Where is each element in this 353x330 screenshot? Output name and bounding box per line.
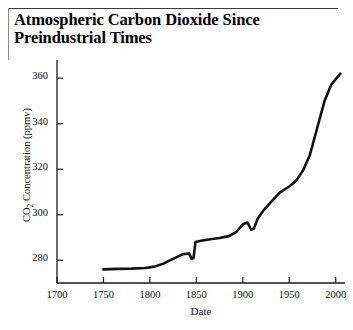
co2-line-chart	[0, 0, 353, 330]
y-tick-label-280: 280	[14, 252, 48, 263]
y-axis-ticks	[57, 78, 63, 260]
x-tick-label-1800: 1800	[130, 289, 170, 300]
y-tick-label-320: 320	[14, 161, 48, 172]
x-tick-label-2000: 2000	[316, 289, 353, 300]
y-tick-label-340: 340	[14, 116, 48, 127]
x-tick-label-1900: 1900	[223, 289, 263, 300]
y-tick-label-360: 360	[14, 70, 48, 81]
plot-area: CO2 Concentration (ppmv) Date 2803003203…	[0, 0, 353, 330]
x-axis-ticks	[57, 277, 336, 283]
figure-page: Atmospheric Carbon Dioxide Since Preindu…	[0, 0, 353, 330]
x-tick-label-1700: 1700	[37, 289, 77, 300]
y-tick-label-300: 300	[14, 207, 48, 218]
x-tick-label-1750: 1750	[83, 289, 123, 300]
x-tick-label-1850: 1850	[176, 289, 216, 300]
x-axis-title: Date	[57, 305, 345, 317]
co2-data-line	[103, 74, 340, 270]
x-tick-label-1950: 1950	[269, 289, 309, 300]
